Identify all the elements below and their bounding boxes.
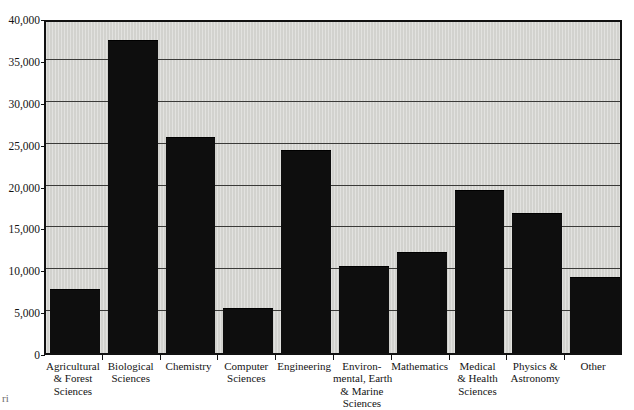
x-axis-category-label: Chemistry bbox=[160, 360, 218, 372]
bar bbox=[108, 40, 158, 353]
x-axis-category-line: Sciences bbox=[333, 397, 391, 409]
plot-area bbox=[44, 20, 622, 355]
x-axis-category-label: Engineering bbox=[275, 360, 333, 372]
bar bbox=[397, 252, 447, 353]
bar bbox=[570, 277, 620, 353]
x-axis-category-line: Medical bbox=[449, 360, 507, 372]
x-axis-category-line: Mathematics bbox=[391, 360, 449, 372]
x-axis-category-line: Astronomy bbox=[506, 372, 564, 384]
x-axis-category-line: Environ- bbox=[333, 360, 391, 372]
bar bbox=[223, 308, 273, 353]
y-axis-tick-label: 40,000 bbox=[0, 14, 40, 26]
bar bbox=[50, 289, 100, 353]
x-axis-category-label: Other bbox=[564, 360, 622, 372]
y-axis-tick-label: 35,000 bbox=[0, 56, 40, 68]
bar bbox=[455, 190, 505, 353]
x-axis-category-label: ComputerSciences bbox=[217, 360, 275, 385]
scan-artifact-text: ri bbox=[2, 392, 9, 404]
x-axis-category-line: & Marine bbox=[333, 385, 391, 397]
x-axis-category-line: Other bbox=[564, 360, 622, 372]
bar bbox=[166, 137, 216, 353]
x-axis-category-line: Chemistry bbox=[160, 360, 218, 372]
bar-chart-figure: 05,00010,00015,00020,00025,00030,00035,0… bbox=[0, 0, 634, 410]
y-axis-tick-label: 10,000 bbox=[0, 265, 40, 277]
bar bbox=[512, 213, 562, 353]
x-axis-category-line: & Health bbox=[449, 372, 507, 384]
x-axis-labels: Agricultural& ForestSciencesBiologicalSc… bbox=[44, 360, 622, 410]
y-axis-tick-label: 5,000 bbox=[0, 307, 40, 319]
bar bbox=[339, 266, 389, 353]
x-axis-category-label: Medical& HealthSciences bbox=[449, 360, 507, 397]
y-axis-tick-label: 30,000 bbox=[0, 98, 40, 110]
x-axis-category-line: Sciences bbox=[44, 385, 102, 397]
x-axis-category-label: Agricultural& ForestSciences bbox=[44, 360, 102, 397]
y-axis-tick-label: 15,000 bbox=[0, 223, 40, 235]
x-axis-category-label: BiologicalSciences bbox=[102, 360, 160, 385]
x-axis-category-label: Environ-mental, Earth& MarineSciences bbox=[333, 360, 391, 410]
x-axis-category-label: Physics &Astronomy bbox=[506, 360, 564, 385]
x-axis-category-line: Engineering bbox=[275, 360, 333, 372]
y-axis-tick-mark bbox=[41, 355, 45, 356]
y-axis-tick-label: 25,000 bbox=[0, 140, 40, 152]
x-axis-category-line: Computer bbox=[217, 360, 275, 372]
x-axis-category-line: mental, Earth bbox=[333, 372, 391, 384]
x-axis-category-line: & Forest bbox=[44, 372, 102, 384]
bar bbox=[281, 150, 331, 353]
x-axis-category-line: Biological bbox=[102, 360, 160, 372]
y-axis-tick-label: 20,000 bbox=[0, 182, 40, 194]
x-axis-category-label: Mathematics bbox=[391, 360, 449, 372]
x-axis-category-line: Sciences bbox=[449, 385, 507, 397]
y-axis-tick-label: 0 bbox=[0, 349, 40, 361]
x-axis-category-line: Sciences bbox=[217, 372, 275, 384]
x-axis-category-line: Sciences bbox=[102, 372, 160, 384]
x-axis-category-line: Physics & bbox=[506, 360, 564, 372]
x-axis-category-line: Agricultural bbox=[44, 360, 102, 372]
